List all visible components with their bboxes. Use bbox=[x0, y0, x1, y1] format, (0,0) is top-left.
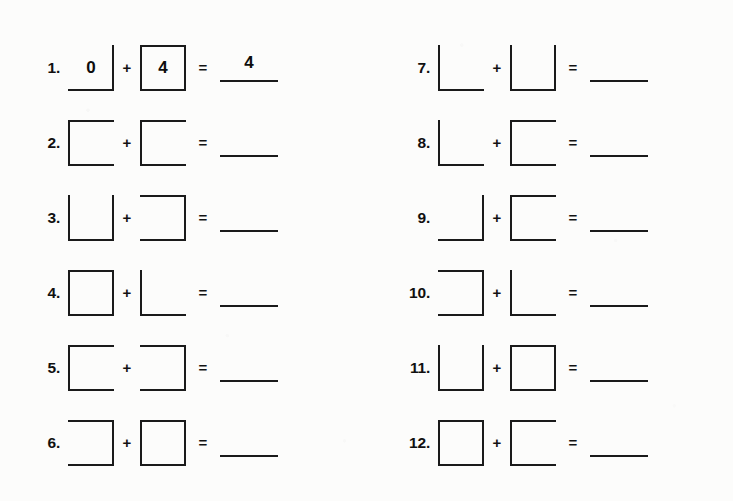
operand-box-c-open-left[interactable] bbox=[68, 420, 114, 466]
box-edge-left-icon bbox=[438, 45, 440, 91]
answer-blank[interactable] bbox=[590, 45, 648, 91]
box-edge-bottom-icon bbox=[438, 89, 484, 91]
box-edge-right-icon bbox=[184, 195, 186, 241]
plus-operator-icon: + bbox=[484, 209, 510, 226]
answer-blank[interactable] bbox=[220, 120, 278, 166]
operand-box-full-square[interactable] bbox=[510, 345, 556, 391]
box-edge-bottom-icon bbox=[140, 89, 186, 91]
operand-box-c-open-right[interactable] bbox=[510, 420, 556, 466]
box-edge-top-icon bbox=[68, 270, 114, 272]
operand-box-c-open-left[interactable] bbox=[438, 270, 484, 316]
answer-blank[interactable] bbox=[220, 420, 278, 466]
box-edge-right-icon bbox=[112, 270, 114, 316]
operand-box-l-corner[interactable] bbox=[438, 120, 484, 166]
answer-blank[interactable] bbox=[590, 270, 648, 316]
worksheet-sheet: 1.0+4=42.+=3.+=4.+=5.+=6.+= 7.+=8.+=9.+=… bbox=[0, 0, 733, 501]
box-edge-left-icon bbox=[68, 120, 70, 166]
operand-box-full-square[interactable] bbox=[438, 420, 484, 466]
plus-operator-icon: + bbox=[114, 59, 140, 76]
answer-rule-line bbox=[220, 230, 278, 232]
box-edge-top-icon bbox=[140, 195, 186, 197]
plus-operator-icon: + bbox=[114, 134, 140, 151]
answer-rule-line bbox=[220, 80, 278, 82]
box-edge-bottom-icon bbox=[510, 164, 556, 166]
box-edge-bottom-icon bbox=[510, 314, 556, 316]
plus-operator-icon: + bbox=[484, 434, 510, 451]
box-edge-right-icon bbox=[112, 45, 114, 91]
box-edge-top-icon bbox=[510, 345, 556, 347]
problem-row: 12.+= bbox=[366, 405, 732, 480]
answer-blank[interactable] bbox=[590, 345, 648, 391]
operand-box-u-open-top[interactable] bbox=[68, 195, 114, 241]
operand-box-c-open-right[interactable] bbox=[140, 120, 186, 166]
box-edge-bottom-icon bbox=[68, 464, 114, 466]
problem-row: 10.+= bbox=[366, 255, 732, 330]
box-edge-bottom-icon bbox=[68, 389, 114, 391]
answer-blank[interactable]: 4 bbox=[220, 45, 278, 91]
box-edge-bottom-icon bbox=[510, 89, 556, 91]
box-edge-right-icon bbox=[482, 195, 484, 241]
answer-blank[interactable] bbox=[220, 345, 278, 391]
problem-row: 6.+= bbox=[0, 405, 366, 480]
operand-box-l-corner[interactable] bbox=[510, 270, 556, 316]
box-edge-right-icon bbox=[184, 45, 186, 91]
operand-box-c-open-right[interactable] bbox=[510, 195, 556, 241]
operand-box-c-open-left[interactable] bbox=[140, 195, 186, 241]
problem-number: 7. bbox=[390, 59, 438, 77]
answer-blank[interactable] bbox=[590, 195, 648, 241]
equals-operator-icon: = bbox=[186, 59, 220, 76]
operand-box-full-square[interactable]: 4 bbox=[140, 45, 186, 91]
box-edge-right-icon bbox=[554, 45, 556, 91]
box-edge-bottom-icon bbox=[510, 239, 556, 241]
operand-box-l-corner[interactable] bbox=[140, 270, 186, 316]
box-edge-top-icon bbox=[68, 120, 114, 122]
operand-box-u-open-top[interactable] bbox=[438, 345, 484, 391]
operand-box-u-open-top[interactable] bbox=[510, 45, 556, 91]
operand-box-full-square[interactable] bbox=[68, 270, 114, 316]
box-edge-bottom-icon bbox=[140, 164, 186, 166]
plus-operator-icon: + bbox=[484, 59, 510, 76]
box-edge-top-icon bbox=[68, 345, 114, 347]
box-edge-left-icon bbox=[68, 270, 70, 316]
equals-operator-icon: = bbox=[186, 434, 220, 451]
box-edge-right-icon bbox=[184, 345, 186, 391]
operand-box-right-bottom-corner[interactable]: 0 bbox=[68, 45, 114, 91]
box-edge-left-icon bbox=[140, 420, 142, 466]
operand-box-l-corner[interactable] bbox=[438, 45, 484, 91]
box-edge-right-icon bbox=[482, 270, 484, 316]
problem-number: 4. bbox=[26, 284, 68, 302]
answer-value: 4 bbox=[244, 53, 253, 73]
operand-box-right-bottom-corner[interactable] bbox=[438, 195, 484, 241]
equals-operator-icon: = bbox=[186, 359, 220, 376]
answer-rule-line bbox=[220, 455, 278, 457]
problem-number: 9. bbox=[390, 209, 438, 227]
answer-blank[interactable] bbox=[590, 420, 648, 466]
answer-rule-line bbox=[590, 80, 648, 82]
left-column: 1.0+4=42.+=3.+=4.+=5.+=6.+= bbox=[0, 30, 366, 480]
operand-box-c-open-right[interactable] bbox=[68, 345, 114, 391]
operand-box-c-open-right[interactable] bbox=[510, 120, 556, 166]
box-edge-left-icon bbox=[438, 345, 440, 391]
box-edge-bottom-icon bbox=[510, 464, 556, 466]
problem-row: 9.+= bbox=[366, 180, 732, 255]
operand-value: 0 bbox=[86, 59, 95, 76]
plus-operator-icon: + bbox=[484, 284, 510, 301]
box-edge-bottom-icon bbox=[140, 239, 186, 241]
box-edge-bottom-icon bbox=[68, 89, 114, 91]
answer-rule-line bbox=[590, 305, 648, 307]
problem-number: 8. bbox=[390, 134, 438, 152]
box-edge-top-icon bbox=[140, 45, 186, 47]
box-edge-top-icon bbox=[140, 345, 186, 347]
operand-box-c-open-right[interactable] bbox=[68, 120, 114, 166]
problem-number: 6. bbox=[26, 434, 68, 452]
answer-blank[interactable] bbox=[220, 270, 278, 316]
operand-box-full-square[interactable] bbox=[140, 420, 186, 466]
answer-rule-line bbox=[220, 305, 278, 307]
box-edge-left-icon bbox=[510, 345, 512, 391]
answer-blank[interactable] bbox=[220, 195, 278, 241]
problem-row: 4.+= bbox=[0, 255, 366, 330]
operand-box-c-open-left[interactable] bbox=[140, 345, 186, 391]
answer-rule-line bbox=[590, 155, 648, 157]
equals-operator-icon: = bbox=[556, 434, 590, 451]
answer-blank[interactable] bbox=[590, 120, 648, 166]
